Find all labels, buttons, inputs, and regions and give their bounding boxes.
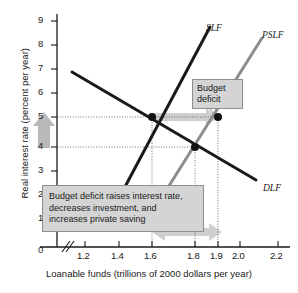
- y-tick-label-8: 8: [38, 39, 43, 49]
- curve-label-pslf: PSLF: [262, 30, 284, 40]
- x-tick-label-1-6: 1.6: [144, 251, 157, 261]
- x-tick-label-1-4: 1.4: [111, 251, 124, 261]
- y-axis-title: Real interest rate (percent per year): [19, 49, 30, 199]
- explanation-callout: Budget deficit raises interest rate, dec…: [42, 185, 204, 232]
- equilibrium-point-new: [148, 113, 156, 121]
- budget-deficit-callout: Budget deficit: [192, 79, 243, 109]
- y-tick-label-0: 0: [38, 245, 43, 255]
- x-tick-label-2-0: 2.0: [232, 251, 245, 261]
- deficit-endpoint-marker: [214, 113, 222, 121]
- y-tick-label-3: 3: [38, 165, 43, 175]
- y-tick-label-6: 6: [38, 87, 43, 97]
- y-tick-label-9: 9: [38, 15, 43, 25]
- x-tick-label-1-8: 1.8: [187, 251, 200, 261]
- x-tick-label-1-2: 1.2: [77, 251, 90, 261]
- x-tick-label-1-9: 1.9: [210, 251, 223, 261]
- x-ticks: [85, 241, 278, 247]
- y-tick-label-5: 5: [38, 111, 43, 121]
- curve-label-dlf: DLF: [263, 183, 281, 193]
- y-tick-label-4: 4: [38, 141, 43, 151]
- equilibrium-point-initial: [191, 143, 199, 151]
- y-tick-label-7: 7: [38, 63, 43, 73]
- loanable-funds-chart: 9 8 7 6 5 4 3 2 1 0 1.2 1.4 1.6 1.8 1.9 …: [0, 0, 298, 293]
- x-axis-title: Loanable funds (trillions of 2000 dollar…: [0, 268, 298, 279]
- curve-label-slf: SLF: [206, 23, 222, 33]
- x-tick-label-2-2: 2.2: [270, 251, 283, 261]
